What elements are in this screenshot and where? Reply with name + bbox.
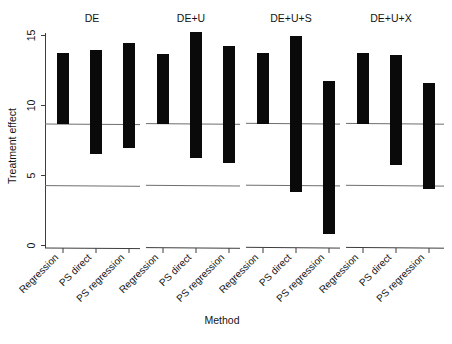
bar-de-u-regression	[157, 54, 169, 124]
lower-reference-line-panel-1	[45, 186, 140, 187]
panel-title-de-u: DE+U	[177, 12, 205, 24]
y-tick-label-0: 0	[25, 242, 37, 248]
bar-de-u-x-ps-direct	[390, 55, 402, 165]
y-axis-title: Treatment effect	[6, 108, 18, 184]
bar-de-ps-regression	[123, 43, 135, 148]
bar-de-u-ps-regression	[223, 46, 235, 163]
treatment-effect-bar-chart: 15 10 5 0 Treatment effect DE DE+U DE+U+…	[0, 0, 452, 344]
panel-title-de-u-x: DE+U+X	[370, 12, 411, 24]
bar-de-u-s-ps-regression	[323, 81, 335, 234]
x-axis-title: Method	[204, 314, 239, 326]
bar-de-u-s-ps-direct	[290, 36, 302, 192]
y-tick-label-15: 15	[25, 30, 37, 42]
bar-de-u-x-regression	[357, 53, 369, 124]
bar-de-ps-direct	[90, 50, 102, 154]
bar-de-u-s-regression	[257, 53, 269, 124]
bar-de-u-x-ps-regression	[423, 83, 435, 189]
bar-de-regression	[57, 53, 69, 124]
panel-title-de-u-s: DE+U+S	[270, 12, 311, 24]
lower-reference-line-panel-2	[146, 185, 240, 186]
y-tick-label-5: 5	[25, 172, 37, 178]
panel-title-de: DE	[85, 12, 100, 24]
y-tick-label-10: 10	[25, 100, 37, 112]
bar-de-u-ps-direct	[190, 32, 202, 158]
